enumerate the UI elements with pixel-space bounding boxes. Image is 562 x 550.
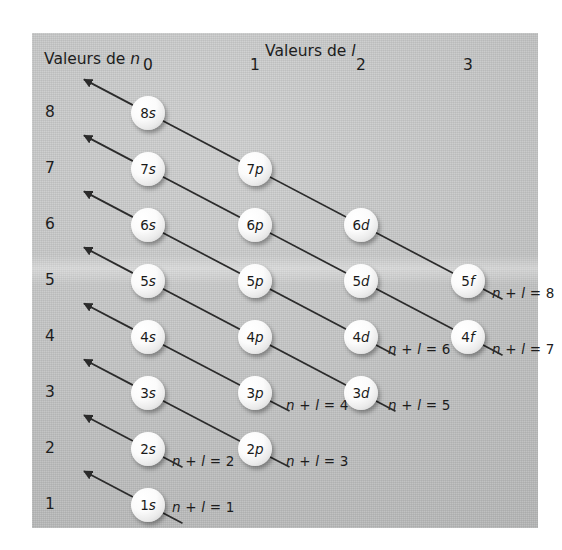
- orbital-5p: 5p: [238, 264, 272, 298]
- orbital-label: 3s: [140, 385, 156, 401]
- orbital-label: 5f: [461, 273, 474, 289]
- orbital-label: 2s: [140, 441, 156, 457]
- orbital-label: 6d: [352, 217, 369, 233]
- orbital-2s: 2s: [131, 432, 165, 466]
- orbital-4f: 4f: [451, 320, 485, 354]
- orbital-label: 5s: [140, 273, 156, 289]
- orbital-4s: 4s: [131, 320, 165, 354]
- orbital-label: 6s: [140, 217, 156, 233]
- orbital-label: 7s: [140, 161, 156, 177]
- arrow-sum-5: [84, 247, 133, 273]
- orbital-5s: 5s: [131, 264, 165, 298]
- orbital-label: 8s: [140, 105, 156, 121]
- arrow-sum-8: [84, 79, 133, 105]
- arrow-sum-4: [84, 304, 133, 330]
- figure-root: Valeurs de n Valeurs de l 0123 87654321 …: [0, 0, 562, 550]
- orbital-3d: 3d: [344, 376, 378, 410]
- orbital-label: 4s: [140, 329, 156, 345]
- orbital-1s: 1s: [131, 488, 165, 522]
- orbital-label: 6p: [246, 217, 263, 233]
- orbital-8s: 8s: [131, 96, 165, 130]
- orbital-4p: 4p: [238, 320, 272, 354]
- orbital-label: 5d: [352, 273, 369, 289]
- orbital-3s: 3s: [131, 376, 165, 410]
- orbital-label: 5p: [246, 273, 263, 289]
- arrow-sum-2: [84, 415, 133, 441]
- orbital-6d: 6d: [344, 208, 378, 242]
- orbital-label: 4p: [246, 329, 263, 345]
- orbital-label: 7p: [246, 161, 263, 177]
- orbital-3p: 3p: [238, 376, 272, 410]
- orbital-2p: 2p: [238, 432, 272, 466]
- orbital-7s: 7s: [131, 152, 165, 186]
- orbital-label: 4d: [352, 329, 369, 345]
- orbital-6p: 6p: [238, 208, 272, 242]
- orbital-7p: 7p: [238, 152, 272, 186]
- orbital-4d: 4d: [344, 320, 378, 354]
- orbital-label: 2p: [246, 441, 263, 457]
- orbital-5d: 5d: [344, 264, 378, 298]
- orbital-label: 3p: [246, 385, 263, 401]
- orbital-label: 3d: [352, 385, 369, 401]
- orbital-label: 4f: [461, 329, 474, 345]
- arrow-sum-3: [84, 360, 133, 386]
- arrow-sum-6: [84, 191, 133, 217]
- orbital-5f: 5f: [451, 264, 485, 298]
- arrow-sum-7: [84, 135, 133, 161]
- arrow-sum-1: [84, 471, 133, 497]
- orbital-6s: 6s: [131, 208, 165, 242]
- orbital-label: 1s: [140, 497, 156, 513]
